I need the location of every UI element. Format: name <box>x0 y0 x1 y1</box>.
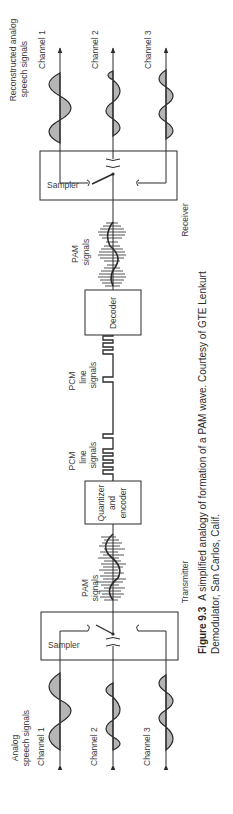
input-channel-3-label: Channel 3 <box>142 727 152 766</box>
tx-sampler-label: Sampler <box>48 640 80 650</box>
decoder-label: Decoder <box>108 297 118 329</box>
rx-pam-label-line2: signals <box>81 239 91 265</box>
quantizer-label-line2: and <box>107 496 117 510</box>
pcm1-label-line1: PCM <box>67 452 77 471</box>
input-channel-1-label: Channel 1 <box>36 727 46 766</box>
output-channel-1 <box>49 48 71 151</box>
output-heading-line2: speech signals <box>19 41 29 97</box>
pcm2-label-line1: PCM <box>67 372 77 391</box>
input-channel-2-label: Channel 2 <box>89 727 99 766</box>
figure-caption-line2: Demodulator, San Carlos, Calif. <box>210 514 221 654</box>
input-channel-2 <box>106 660 120 765</box>
pcm-waveform-1 <box>103 394 113 481</box>
pcm-waveform-2 <box>103 335 113 394</box>
transmitter-label: Transmitter <box>180 561 190 604</box>
pcm1-label-line3: signals <box>88 442 98 468</box>
output-channel-3 <box>159 48 173 151</box>
decoder-block: Decoder <box>85 290 141 335</box>
input-heading-line1: Analog <box>10 734 20 761</box>
tx-pam-waveform <box>96 534 126 600</box>
input-channel-3 <box>159 660 173 765</box>
tx-commutator-arm <box>96 625 113 634</box>
pcm2-label-line3: signals <box>88 362 98 388</box>
output-waveform-2 <box>106 71 120 136</box>
figure-caption-line1: Figure 9.3A simplified analogy of format… <box>197 271 208 654</box>
receiver-label: Receiver <box>180 203 190 237</box>
quantizer-label-line1: Quantizer <box>96 484 106 521</box>
input-waveform-3 <box>159 675 173 750</box>
output-channel-3-label: Channel 3 <box>143 30 153 69</box>
tx-sampler-block: Sampler <box>41 612 178 660</box>
figure-caption-text: A simplified analogy of formation of a P… <box>197 271 208 601</box>
figure-number: Figure 9.3 <box>197 606 208 654</box>
quantizer-label-line3: encoder <box>118 487 128 518</box>
output-channel-1-label: Channel 1 <box>37 30 47 69</box>
output-channel-2-label: Channel 2 <box>90 30 100 69</box>
output-waveform-1 <box>49 73 71 143</box>
input-waveform-1 <box>49 673 71 750</box>
rx-sampler-block: Sampler <box>40 151 177 200</box>
quantizer-encoder-block: Quantizer and encoder <box>85 481 141 524</box>
rx-commutator-arm <box>92 174 113 184</box>
rx-pam-waveform <box>98 222 126 286</box>
tx-pam-label-line1: PAM <box>80 579 90 597</box>
pam-formation-diagram: Analog speech signals Channel 1 Channel … <box>0 0 233 814</box>
input-waveform-2 <box>106 683 120 750</box>
input-channel-1 <box>49 660 71 765</box>
input-heading-line2: speech signals <box>21 710 31 766</box>
output-waveform-3 <box>159 70 173 139</box>
output-channel-2 <box>106 48 120 151</box>
pcm1-label-line2: line <box>78 450 88 464</box>
rx-pam-label-line1: PAM <box>70 245 80 263</box>
tx-pam-label-line2: signals <box>90 575 100 601</box>
output-heading-line1: Reconstructed analog <box>8 18 18 101</box>
pcm2-label-line2: line <box>78 370 88 384</box>
rx-sampler-label: Sampler <box>47 180 79 190</box>
